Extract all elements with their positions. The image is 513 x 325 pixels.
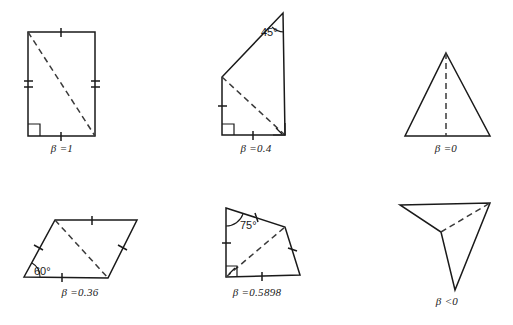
beta-label-text: β =1 — [51, 142, 73, 154]
beta-label-panel-6: β <0 — [436, 295, 458, 307]
concave-quad-outline — [400, 203, 490, 290]
shape-concave-quadrilateral — [400, 203, 490, 290]
beta-label-text: β =0 — [435, 142, 457, 154]
trapezoid-diagonal — [222, 77, 285, 135]
beta-label-text: β =0.36 — [61, 286, 98, 298]
beta-label-panel-1: β =1 — [51, 142, 73, 154]
rectangle-diagonal — [28, 32, 95, 136]
geometry-figure-canvas: 45° 60° 75° — [0, 0, 513, 325]
beta-label-panel-4: β =0.36 — [61, 286, 98, 298]
shape-isosceles-triangle — [405, 53, 490, 136]
angle-label-45: 45° — [261, 26, 278, 38]
beta-label-panel-3: β =0 — [435, 142, 457, 154]
beta-label-text: β <0 — [436, 295, 458, 307]
beta-label-panel-5: β =0.5898 — [233, 286, 282, 298]
beta-label-panel-2: β =0.4 — [240, 142, 271, 154]
shape-irregular-quadrilateral: 75° — [222, 208, 300, 281]
triangle-outline — [405, 53, 490, 136]
shape-right-trapezoid: 45° — [218, 13, 285, 140]
right-angle-icon — [28, 124, 40, 136]
right-angle-icon — [222, 124, 234, 135]
angle-label-60: 60° — [34, 265, 51, 277]
beta-label-text: β =0.5898 — [233, 286, 282, 298]
concave-quad-diagonal — [441, 203, 490, 232]
beta-label-text: β =0.4 — [240, 142, 271, 154]
shape-parallelogram: 60° — [24, 216, 137, 282]
parallelogram-diagonal — [55, 220, 108, 278]
shape-rectangle — [24, 28, 100, 141]
angle-label-75: 75° — [240, 219, 257, 231]
quadrilateral-diagonal — [226, 227, 285, 277]
